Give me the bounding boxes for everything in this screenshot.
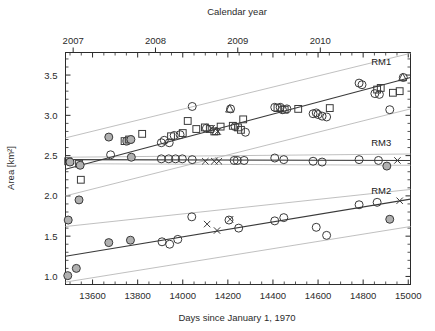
x-tick-label: 14800: [350, 290, 376, 301]
x-tick-label: 13800: [124, 290, 150, 301]
y-tick-label: 1.5: [44, 231, 57, 242]
x-tick-label: 14000: [170, 290, 196, 301]
series-label-rm1: RM1: [371, 56, 391, 67]
y-tick-label: 1.0: [44, 271, 57, 282]
area-vs-days-scatter-chart: Calendar year 2007200820092010 136001380…: [0, 0, 435, 331]
marker-filled-circle: [386, 215, 394, 223]
y-tick-label: 2.0: [44, 190, 57, 201]
x-axis-label: Days since January 1, 1970: [178, 312, 295, 323]
marker-filled-circle: [126, 236, 134, 244]
year-tick-label: 2007: [63, 35, 84, 46]
marker-filled-circle: [75, 196, 83, 204]
marker-filled-circle: [64, 216, 72, 224]
x-tick-label: 14400: [260, 290, 286, 301]
marker-filled-circle: [64, 272, 72, 280]
year-tick-label: 2010: [310, 35, 331, 46]
y-axis-label: Area [km²]: [5, 146, 16, 190]
x-tick-label: 15000: [395, 290, 421, 301]
marker-filled-circle: [383, 162, 391, 170]
series-label-rm3: RM3: [371, 137, 391, 148]
marker-filled-circle: [105, 239, 113, 247]
year-tick-label: 2008: [145, 35, 166, 46]
year-tick-label: 2009: [227, 35, 248, 46]
marker-filled-circle: [127, 153, 135, 161]
series-label-rm2: RM2: [371, 185, 391, 196]
x-tick-label: 14200: [215, 290, 241, 301]
y-tick-label: 2.5: [44, 150, 57, 161]
marker-filled-circle: [72, 264, 80, 272]
marker-filled-circle: [66, 158, 74, 166]
calendar-year-title: Calendar year: [207, 6, 267, 17]
y-tick-label: 3.5: [44, 70, 57, 81]
x-tick-label: 14600: [305, 290, 331, 301]
marker-filled-circle: [76, 161, 84, 169]
y-tick-label: 3.0: [44, 110, 57, 121]
chart-root: Calendar year 2007200820092010 136001380…: [0, 0, 435, 331]
marker-filled-circle: [127, 136, 135, 144]
marker-filled-circle: [105, 133, 113, 141]
x-tick-label: 13600: [79, 290, 105, 301]
